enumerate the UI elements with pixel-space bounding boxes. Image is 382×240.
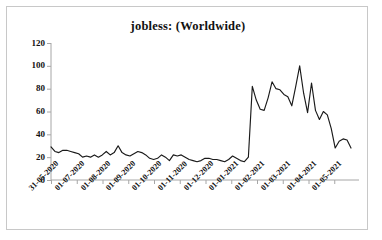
chart-tickmarks xyxy=(47,44,335,185)
y-axis-tick-label: 120 xyxy=(19,39,45,48)
y-axis-tick-label: 60 xyxy=(19,107,45,116)
y-axis-tick-label: 100 xyxy=(19,61,45,70)
y-axis-tick-label: 40 xyxy=(19,130,45,139)
y-axis-tick-label: 20 xyxy=(19,153,45,162)
y-axis-tick-label: 80 xyxy=(19,84,45,93)
chart-frame: jobless: (Worldwide) 020406080100120 31-… xyxy=(6,6,368,230)
data-series-line xyxy=(51,66,351,162)
chart-canvas xyxy=(7,7,369,231)
